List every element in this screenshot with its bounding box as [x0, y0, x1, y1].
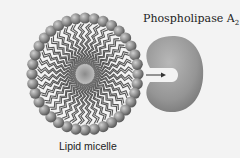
- enzyme-label: Phospholipase A2: [143, 12, 239, 27]
- lipid-head: [30, 88, 41, 99]
- micelle-label: Lipid micelle: [59, 140, 117, 152]
- lipid-head: [27, 59, 38, 70]
- lipid-head: [132, 78, 143, 89]
- lipid-head: [27, 78, 38, 89]
- micelle-core: [65, 54, 105, 94]
- phospholipase-a2-enzyme: [146, 36, 203, 112]
- lipid-head: [26, 68, 37, 79]
- arrow-icon: [146, 73, 166, 78]
- lipid-head: [132, 68, 143, 79]
- lipid-head: [132, 59, 143, 70]
- lipid-head: [129, 49, 140, 60]
